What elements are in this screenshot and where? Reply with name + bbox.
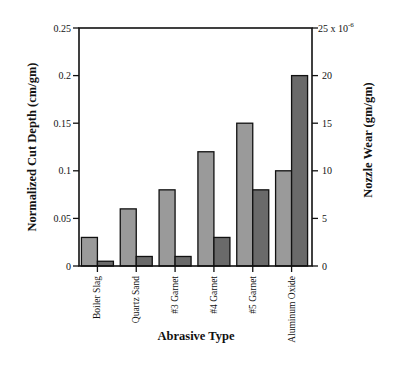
bar-cut-depth — [198, 152, 214, 266]
category-label: Boiler Slag — [92, 276, 102, 319]
bars-group — [81, 76, 307, 266]
x-axis-title: Abrasive Type — [158, 329, 235, 343]
y2-tick-label: 10 — [322, 165, 332, 176]
y-tick-label: 0.2 — [59, 70, 72, 81]
category-label: #5 Garnet — [248, 276, 258, 314]
y-tick-label: 0.15 — [54, 118, 72, 129]
category-label: #4 Garnet — [209, 276, 219, 314]
y2-tick-label: 20 — [322, 70, 332, 81]
bar-nozzle-wear — [253, 190, 269, 266]
bar-cut-depth — [159, 190, 175, 266]
left-axis: 00.050.10.150.20.25 — [54, 23, 80, 272]
bar-cut-depth — [276, 171, 292, 266]
y-axis-title: Normalized Cut Depth (cm/gm) — [25, 62, 39, 231]
bar-chart: 00.050.10.150.20.25 05101520 Boiler Slag… — [0, 0, 395, 367]
bar-cut-depth — [120, 209, 136, 266]
y-tick-label: 0.1 — [59, 165, 72, 176]
right-axis-multiplier: 25 x 10-6 — [318, 21, 354, 34]
y-tick-label: 0 — [66, 261, 71, 272]
bar-cut-depth — [81, 237, 97, 266]
category-label: Aluminum Oxide — [287, 276, 297, 343]
y2-tick-label: 0 — [322, 261, 327, 272]
y2-axis-title: Nozzle Wear (gm/gm) — [361, 82, 375, 197]
category-label: Quartz Sand — [131, 276, 141, 323]
y-tick-label: 0.25 — [54, 23, 72, 34]
right-axis: 05101520 — [312, 28, 332, 272]
y2-tick-label: 15 — [322, 118, 332, 129]
bar-nozzle-wear — [214, 237, 230, 266]
bar-nozzle-wear — [175, 256, 191, 266]
y2-tick-label: 5 — [322, 213, 327, 224]
y-tick-label: 0.05 — [54, 213, 72, 224]
category-label: #3 Garnet — [170, 276, 180, 314]
bar-nozzle-wear — [292, 76, 308, 266]
bar-nozzle-wear — [136, 256, 152, 266]
bar-cut-depth — [237, 123, 253, 266]
